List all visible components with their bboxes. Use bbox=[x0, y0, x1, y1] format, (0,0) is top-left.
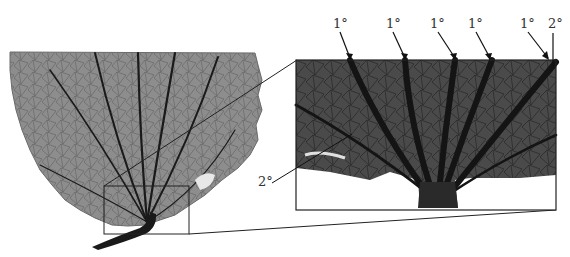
label-primary-2: 1° bbox=[386, 16, 401, 31]
label-primary-5: 1° bbox=[520, 16, 535, 31]
leaf-blade bbox=[10, 52, 262, 226]
label-primary-3: 1° bbox=[430, 16, 445, 31]
label-primary-1: 1° bbox=[333, 16, 348, 31]
magnified-panel bbox=[296, 60, 556, 210]
venation-figure: 1° 1° 1° 1° 1° 2° 2° bbox=[0, 0, 570, 257]
whole-leaf bbox=[10, 52, 262, 250]
connector-bottom bbox=[189, 210, 556, 234]
label-primary-4: 1° bbox=[468, 16, 483, 31]
label-secondary-left: 2° bbox=[258, 174, 273, 189]
primary-vein-labels: 1° 1° 1° 1° 1° bbox=[333, 16, 549, 60]
label-secondary-top: 2° bbox=[548, 16, 563, 31]
